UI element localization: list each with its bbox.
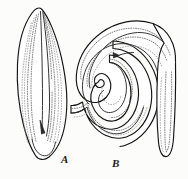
figure-b-drawing <box>71 21 176 157</box>
figure-b-label: B <box>112 158 119 169</box>
figure-plate: A B <box>0 0 188 179</box>
figure-a-drawing <box>17 8 66 159</box>
illustration-canvas <box>0 0 188 179</box>
figure-a-label: A <box>61 154 68 165</box>
